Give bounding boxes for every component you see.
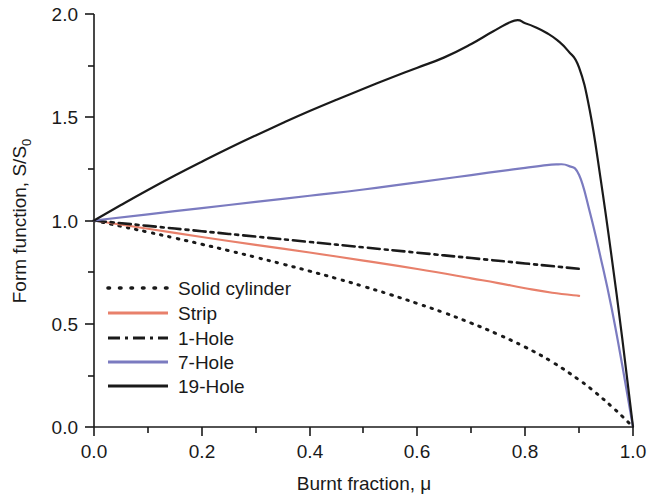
x-tick-label-0-0: 0.0 xyxy=(81,441,107,462)
curve-19-hole xyxy=(94,20,633,427)
y-axis-tick-labels: 2.0 1.5 1.0 0.5 0.0 xyxy=(52,4,78,438)
legend-label-solid-cylinder: Solid cylinder xyxy=(178,278,292,299)
curve-strip xyxy=(94,221,579,296)
legend-label-7-hole: 7-Hole xyxy=(178,352,234,373)
y-tick-label-0-0: 0.0 xyxy=(52,417,78,438)
y-axis-title-subscript: 0 xyxy=(19,139,34,146)
y-axis-title: Form function, S/S0 xyxy=(9,139,34,304)
plot-area: 2.0 1.5 1.0 0.5 0.0 0.0 0.2 0.4 0.6 0.8 … xyxy=(9,4,646,494)
x-tick-label-0-8: 0.8 xyxy=(512,441,538,462)
legend-item-1-hole[interactable]: 1-Hole xyxy=(108,328,234,349)
curve-1-hole xyxy=(94,221,579,269)
curve-7-hole xyxy=(94,164,633,427)
legend: Solid cylinder Strip 1-Hole 7-Hole 19-Ho… xyxy=(108,278,292,397)
x-tick-label-1-0: 1.0 xyxy=(620,441,646,462)
x-tick-label-0-2: 0.2 xyxy=(189,441,215,462)
y-axis-title-main: Form function, S/S xyxy=(9,146,30,303)
legend-item-7-hole[interactable]: 7-Hole xyxy=(108,352,234,373)
y-axis-title-group: Form function, S/S0 xyxy=(9,139,34,304)
x-axis-tick-labels: 0.0 0.2 0.4 0.6 0.8 1.0 xyxy=(81,441,646,462)
y-tick-label-2-0: 2.0 xyxy=(52,4,78,25)
y-tick-label-1-0: 1.0 xyxy=(52,211,78,232)
series-curves xyxy=(94,20,633,427)
form-function-chart: 2.0 1.5 1.0 0.5 0.0 0.0 0.2 0.4 0.6 0.8 … xyxy=(0,0,648,499)
legend-item-19-hole[interactable]: 19-Hole xyxy=(108,376,245,397)
y-tick-label-0-5: 0.5 xyxy=(52,314,78,335)
curve-solid-cylinder xyxy=(94,221,633,428)
legend-item-solid-cylinder[interactable]: Solid cylinder xyxy=(108,278,292,299)
legend-label-19-hole: 19-Hole xyxy=(178,376,245,397)
legend-label-strip: Strip xyxy=(178,303,217,324)
x-axis-title: Burnt fraction, μ xyxy=(297,473,432,494)
x-axis-minor-ticks xyxy=(148,427,579,433)
y-tick-label-1-5: 1.5 xyxy=(52,107,78,128)
x-tick-label-0-6: 0.6 xyxy=(404,441,430,462)
legend-item-strip[interactable]: Strip xyxy=(108,303,217,324)
x-tick-label-0-4: 0.4 xyxy=(297,441,324,462)
legend-label-1-hole: 1-Hole xyxy=(178,328,234,349)
